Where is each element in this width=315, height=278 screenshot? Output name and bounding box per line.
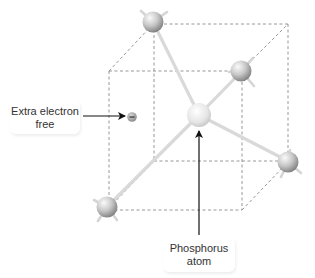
label-phosphorus-line2: atom xyxy=(163,255,235,268)
free-electron xyxy=(127,112,137,122)
bond-lower-right xyxy=(199,115,284,159)
silicon-atom-bottom-left xyxy=(94,197,118,222)
bond-top xyxy=(155,26,199,115)
phosphorus-atom xyxy=(187,103,211,127)
label-phosphorus-atom: Phosphorus atom xyxy=(163,237,235,272)
silicon-atom-lower-right xyxy=(278,150,302,177)
label-extra-electron-line1: Extra electron xyxy=(10,105,80,118)
label-phosphorus-line1: Phosphorus xyxy=(163,242,235,255)
label-extra-electron: Extra electron free xyxy=(10,100,80,134)
bond-bottom-left xyxy=(110,115,199,204)
silicon-atom-top xyxy=(141,11,167,33)
label-extra-electron-line2: free xyxy=(10,118,80,131)
lattice-diagram xyxy=(0,0,315,278)
